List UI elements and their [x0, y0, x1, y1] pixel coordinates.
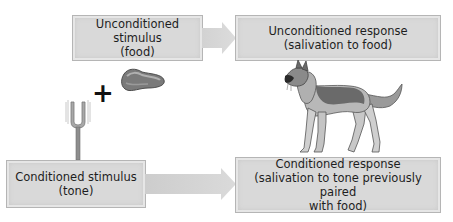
meat-icon [118, 66, 168, 94]
tuning-fork-icon [63, 98, 93, 160]
unconditioned-stimulus-label: Unconditioned stimulus [73, 17, 202, 45]
unconditioned-response-example: (salivation to food) [284, 38, 393, 52]
conditioned-response-example-line1: (salivation to tone previously paired [236, 171, 440, 199]
top-arrow-icon [202, 22, 238, 54]
conditioned-response-box: Conditioned response (salivation to tone… [235, 157, 441, 213]
conditioned-stimulus-example: (tone) [59, 184, 94, 198]
conditioned-response-label: Conditioned response [275, 157, 400, 171]
unconditioned-response-box: Unconditioned response (salivation to fo… [235, 15, 441, 61]
conditioned-stimulus-box: Conditioned stimulus (tone) [6, 160, 146, 208]
unconditioned-stimulus-example: (food) [120, 45, 154, 59]
dog-icon [282, 60, 404, 156]
conditioned-stimulus-label: Conditioned stimulus [15, 170, 137, 184]
plus-sign: + [92, 80, 114, 106]
conditioned-response-example-line2: with food) [309, 199, 367, 213]
bottom-arrow-icon [145, 168, 237, 200]
unconditioned-stimulus-box: Unconditioned stimulus (food) [72, 15, 203, 61]
unconditioned-response-label: Unconditioned response [268, 24, 407, 38]
